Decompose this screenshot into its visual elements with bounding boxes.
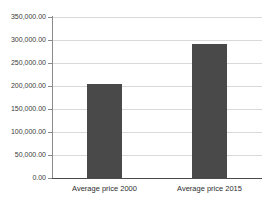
y-axis-tick-label: 300,000.00	[0, 36, 46, 44]
bar	[87, 84, 122, 178]
x-axis-category-label: Average price 2015	[157, 184, 262, 193]
x-axis-line	[52, 178, 262, 179]
y-axis-tick-label: 0.00	[0, 174, 46, 182]
bar-chart: 0.0050,000.00100,000.00150,000.00200,000…	[0, 0, 273, 204]
y-axis-tick-label: 50,000.00	[0, 151, 46, 159]
x-axis-category-label: Average price 2000	[52, 184, 157, 193]
y-axis-tick-label: 150,000.00	[0, 105, 46, 113]
plot-area	[52, 17, 262, 178]
y-axis-tick-label: 350,000.00	[0, 13, 46, 21]
y-axis-tick-label: 100,000.00	[0, 128, 46, 136]
y-axis-tick-label: 250,000.00	[0, 59, 46, 67]
bar	[192, 44, 227, 178]
y-axis-tick-label: 200,000.00	[0, 82, 46, 90]
